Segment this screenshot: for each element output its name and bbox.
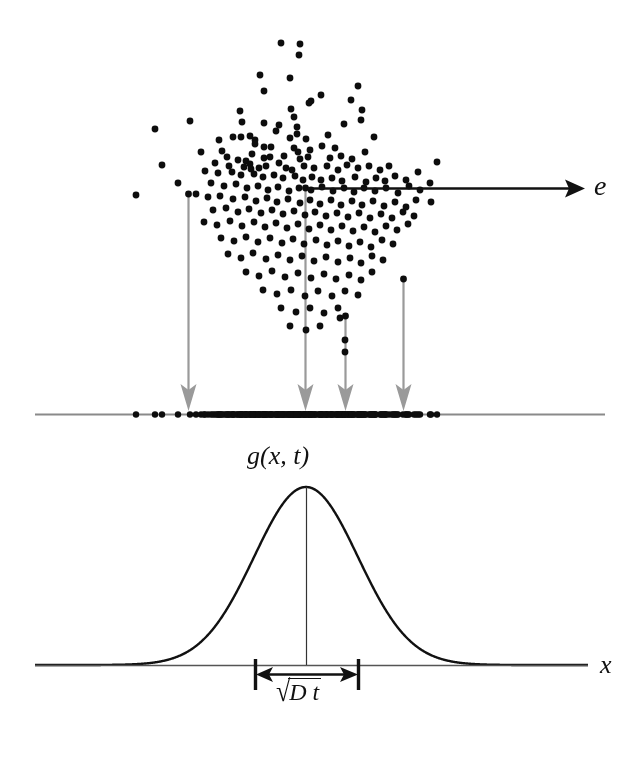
direction-vector-label: e: [594, 172, 606, 200]
x-axis-label: x: [600, 652, 612, 678]
density-function-label: g(x, t): [247, 443, 309, 469]
radical-group: √D t: [274, 679, 321, 706]
radical-body: D t: [288, 678, 321, 704]
sqrt-dt-label: √D t: [274, 679, 321, 706]
diffusion-figure: e x g(x, t) √D t: [0, 0, 641, 763]
figure-drawing-canvas: [0, 0, 641, 763]
